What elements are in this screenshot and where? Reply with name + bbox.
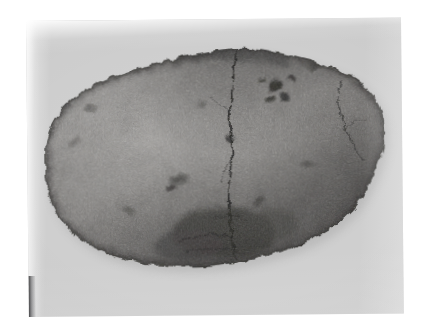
surface-highlights — [26, 17, 404, 317]
page-canvas — [0, 0, 422, 335]
artifact-image — [26, 17, 404, 317]
photograph-plate — [26, 17, 404, 317]
stone-artifact-graphic — [26, 17, 404, 317]
